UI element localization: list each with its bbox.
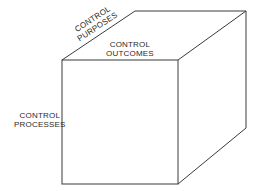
label-control-processes: CONTROL PROCESSES bbox=[14, 111, 66, 129]
label-control-outcomes-line2: OUTCOMES bbox=[106, 49, 154, 58]
control-cube-diagram bbox=[0, 0, 255, 191]
cube-front-face bbox=[62, 60, 178, 184]
label-control-outcomes-line1: CONTROL bbox=[106, 40, 154, 49]
cube-top-right-edge bbox=[178, 11, 246, 60]
label-control-processes-line2: PROCESSES bbox=[14, 120, 66, 129]
cube-bottom-right-edge bbox=[178, 128, 246, 184]
label-control-outcomes: CONTROL OUTCOMES bbox=[106, 40, 154, 58]
label-control-processes-line1: CONTROL bbox=[14, 111, 66, 120]
